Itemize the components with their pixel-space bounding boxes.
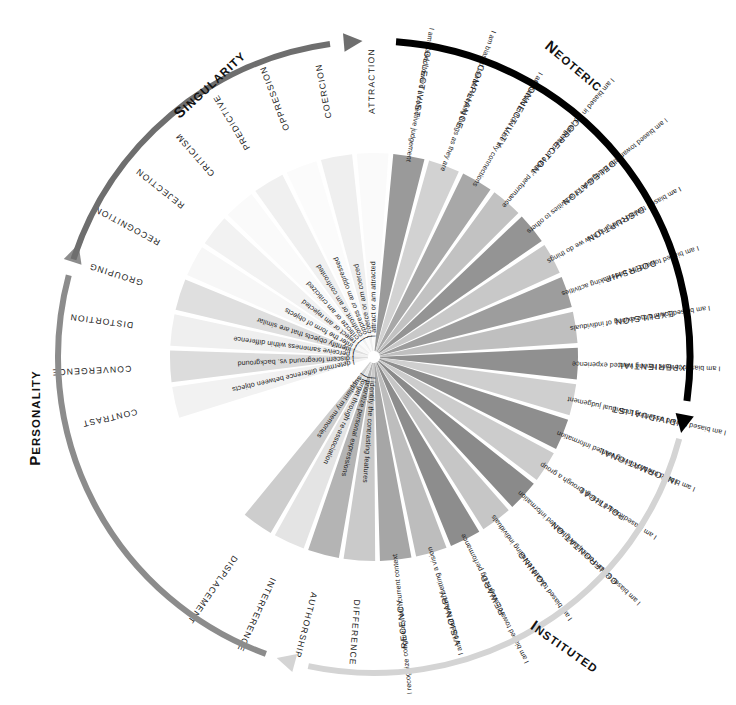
quadrant-label-personality: PERSONALITY	[26, 370, 43, 466]
segment-ring-label[interactable]: JOINING	[515, 549, 549, 589]
segment-ring-label[interactable]: COMPLIANCE	[454, 63, 487, 131]
segment-ring-label[interactable]: DOERSHIP	[603, 258, 657, 285]
segment-ring-label[interactable]: REJECTION	[134, 166, 187, 211]
svg-text:NEOTERIC: NEOTERIC	[542, 37, 607, 95]
segment-statement: I attract or am attracted	[369, 261, 378, 337]
quadrant-label-cap: P	[26, 455, 43, 466]
quadrant-label-singularity: SINGULARITY	[170, 46, 249, 121]
segment-ring-label[interactable]: COLLECTIVIST	[411, 43, 434, 119]
quadrant-arrowhead-personality	[277, 654, 298, 672]
segment-ring-label[interactable]: VISIONARY	[437, 589, 463, 647]
radial-bias-wheel: I determine difference between objectsI …	[0, 0, 736, 705]
segment-ring-label[interactable]: POLITICAL	[576, 484, 627, 522]
svg-text:SINGULARITY: SINGULARITY	[170, 46, 249, 121]
segment-ring-label[interactable]: CORRECTION	[529, 117, 582, 176]
segment-ring-label[interactable]: CONTRAST	[81, 407, 138, 429]
quadrant-arrowhead-neoteric	[343, 33, 363, 52]
segment-ring-label[interactable]: PREDICTIVE	[211, 93, 252, 152]
quadrant-label-neoteric: NEOTERIC	[542, 37, 607, 95]
quadrant-arc-group	[58, 33, 694, 673]
segment-ring-label[interactable]: COERCION	[313, 63, 333, 119]
quadrant-label-rest: ERSONALITY	[30, 370, 42, 454]
segment-ring-label[interactable]: DISTORTION	[69, 312, 134, 330]
segment-ring-label[interactable]: INDIVIDUALIST	[610, 404, 687, 430]
quadrant-label-rest: NSTITUTED	[533, 623, 600, 675]
svg-text:INSTITUTED: INSTITUTED	[528, 617, 603, 676]
segment-ring-label[interactable]: OPPRESSION	[258, 65, 292, 132]
svg-text:PERSONALITY: PERSONALITY	[26, 370, 43, 466]
segment-ring-label[interactable]: REWARD	[478, 572, 507, 617]
segment-ring-label[interactable]: CONFRONTATION	[548, 519, 620, 587]
segment-ring-label[interactable]: EXPULSION	[614, 309, 674, 328]
segment-ring-label[interactable]: GROUPING	[88, 261, 144, 288]
segment-ring-label[interactable]: DELEGATION	[560, 159, 618, 209]
segment-ring-label[interactable]: CRITICISM	[173, 131, 216, 178]
wedge-group	[170, 153, 578, 561]
quadrant-label-rest: EOTERIC	[552, 47, 604, 94]
segment-ring-label[interactable]: AUTHORSHIP	[293, 591, 320, 659]
segment-ring-label[interactable]: CONVERGENCE	[51, 364, 131, 378]
segment-ring-label[interactable]: EXPERIENTIAL	[617, 361, 693, 373]
segment-ring-label[interactable]: RECENCY	[394, 598, 409, 649]
segment-ring-label[interactable]: ATTRACTION	[366, 48, 376, 114]
segment-ring-label[interactable]: CONNECTIVITY	[493, 78, 541, 150]
segment-ring-label[interactable]: RECOGNITION	[92, 204, 161, 247]
diagram-canvas: I determine difference between objectsI …	[0, 0, 736, 705]
segment-ring-label[interactable]: DIFFERENCE	[347, 599, 362, 666]
segment-ring-label[interactable]: DISRUPTION	[585, 205, 646, 245]
quadrant-label-instituted: INSTITUTED	[528, 617, 603, 676]
